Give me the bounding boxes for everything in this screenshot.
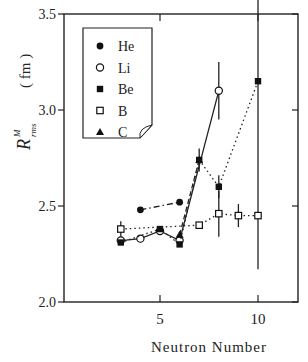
legend-label-be: Be xyxy=(118,82,134,97)
legend-marker-li xyxy=(96,64,103,71)
chart-figure: 2.02.53.03.5510Neutron NumberRMrms( fm )… xyxy=(0,0,308,362)
legend-label-li: Li xyxy=(118,61,131,76)
legend-marker-b xyxy=(97,107,103,113)
data-point xyxy=(216,184,222,190)
legend-label-he: He xyxy=(118,39,134,54)
data-point xyxy=(118,239,124,245)
y-tick-label: 3.5 xyxy=(39,7,57,22)
x-tick-label: 10 xyxy=(251,311,266,327)
x-axis-label: Neutron Number xyxy=(151,339,267,355)
data-point xyxy=(176,199,183,206)
y-axis-label: RMrms( fm ) xyxy=(12,54,38,151)
data-point xyxy=(137,206,144,213)
data-point xyxy=(235,212,241,218)
data-point xyxy=(176,241,182,247)
y-tick-label: 3.0 xyxy=(39,103,57,118)
data-point xyxy=(215,87,222,94)
y-label-sup: M xyxy=(12,129,22,138)
series-b xyxy=(118,191,262,237)
data-point xyxy=(118,226,124,232)
legend-marker-he xyxy=(97,43,104,50)
data-point xyxy=(255,78,261,84)
y-tick-label: 2.0 xyxy=(39,295,57,310)
legend-label-b: B xyxy=(118,104,127,119)
data-point xyxy=(255,212,261,218)
data-point xyxy=(196,222,202,228)
y-label-sub: rms xyxy=(28,123,38,137)
series-he xyxy=(137,199,183,213)
legend-label-c: C xyxy=(118,125,127,140)
legend: HeLiBeBC xyxy=(83,28,152,140)
plot-area: 2.02.53.03.5510Neutron NumberRMrms( fm )… xyxy=(0,0,308,362)
series-line xyxy=(140,202,179,210)
legend-marker-be xyxy=(97,86,103,92)
data-point xyxy=(216,210,222,216)
y-label-unit: ( fm ) xyxy=(17,54,34,88)
y-label-main: R xyxy=(14,139,34,151)
x-tick-label: 5 xyxy=(156,311,164,327)
y-tick-label: 2.5 xyxy=(39,199,57,214)
